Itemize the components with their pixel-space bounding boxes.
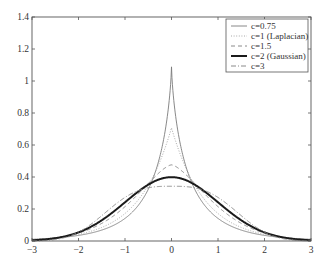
y-tick-label: 1.4 bbox=[17, 12, 29, 22]
legend-label: c=2 (Gaussian) bbox=[251, 51, 306, 61]
x-tick-label: 2 bbox=[262, 245, 267, 255]
legend: c=0.75c=1 (Laplacian)c=1.5c=2 (Gaussian)… bbox=[226, 19, 308, 72]
y-tick-label: 0.4 bbox=[17, 172, 29, 182]
legend-label: c=1.5 bbox=[251, 41, 272, 51]
legend-label: c=1 (Laplacian) bbox=[251, 31, 308, 41]
x-tick-label: 1 bbox=[216, 245, 221, 255]
x-tick-label: 3 bbox=[309, 245, 314, 255]
y-tick-label: 1 bbox=[24, 76, 29, 86]
generalized-gaussian-chart: −3−2−10123 00.20.40.60.811.21.4 c=0.75c=… bbox=[0, 0, 332, 263]
legend-label: c=0.75 bbox=[251, 21, 276, 31]
x-tick-label: −3 bbox=[27, 245, 37, 255]
x-tick-label: −2 bbox=[73, 245, 83, 255]
y-tick-label: 0.6 bbox=[17, 140, 29, 150]
x-tick-label: −1 bbox=[120, 245, 130, 255]
y-tick-label: 1.2 bbox=[17, 44, 29, 54]
y-tick-label: 0.8 bbox=[17, 108, 29, 118]
x-tick-label: 0 bbox=[169, 245, 174, 255]
legend-label: c=3 bbox=[251, 61, 265, 71]
y-tick-label: 0 bbox=[24, 236, 29, 246]
y-tick-label: 0.2 bbox=[17, 204, 29, 214]
